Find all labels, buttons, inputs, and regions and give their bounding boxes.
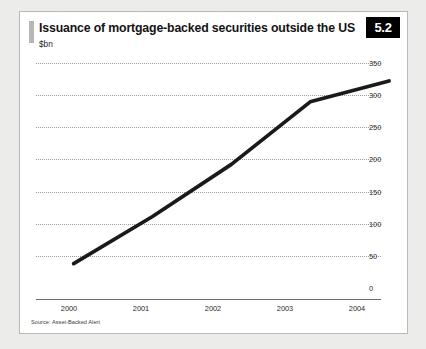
- y-axis-tick-label: 0: [369, 284, 373, 293]
- chart-subtitle: $bn: [39, 39, 53, 49]
- y-axis-tick-label: 150: [369, 187, 381, 196]
- y-axis-tick-label: 350: [369, 59, 381, 68]
- gridline: [36, 95, 381, 96]
- gridline: [36, 256, 381, 257]
- x-axis-tick-label: 2003: [277, 304, 293, 313]
- source-note: Source: Asset-Backed Alert: [31, 319, 100, 325]
- title-accent-bar: [29, 21, 34, 43]
- y-axis-tick-label: 300: [369, 91, 381, 100]
- gridline: [36, 224, 381, 225]
- x-axis-tick-label: 2001: [133, 304, 149, 313]
- page-title: Issuance of mortgage-backed securities o…: [39, 21, 359, 35]
- plot-area: [36, 52, 381, 289]
- x-axis-tick-label: 2000: [61, 304, 77, 313]
- gridline: [36, 192, 381, 193]
- x-axis-line: [36, 299, 381, 300]
- gridline: [36, 127, 381, 128]
- x-axis-tick-label: 2002: [205, 304, 221, 313]
- x-axis-tick-label: 2004: [349, 304, 365, 313]
- y-axis-tick-label: 200: [369, 155, 381, 164]
- y-axis-tick-label: 250: [369, 123, 381, 132]
- y-axis-tick-label: 50: [369, 251, 377, 260]
- y-axis-tick-label: 100: [369, 219, 381, 228]
- figure-number-badge: 5.2: [366, 17, 400, 38]
- figure-card: Issuance of mortgage-backed securities o…: [19, 11, 408, 334]
- gridline: [36, 63, 381, 64]
- gridline: [36, 159, 381, 160]
